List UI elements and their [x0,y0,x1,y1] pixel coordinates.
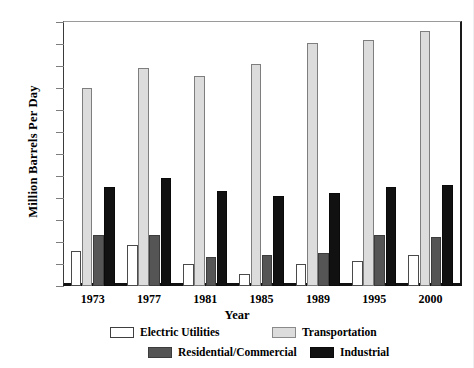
petroleum-consumption-bar-chart: Million Barrels Per Day 0123456789101112… [0,0,474,368]
bar [273,196,284,286]
bar [161,178,172,286]
x-axis-tick-label: 2000 [400,292,460,307]
y-axis-tick [56,66,64,67]
y-axis-title: Million Barrels Per Day [26,27,41,277]
legend-swatch-icon [110,327,134,338]
bar-group [346,22,402,286]
x-axis-title: Year [0,308,474,323]
legend-swatch-icon [310,347,334,358]
x-axis-tick-label: 1973 [63,292,123,307]
legend-entry: Transportation [272,326,377,338]
y-axis-tick [56,264,64,265]
bar [318,253,329,286]
bar [408,255,419,286]
legend-label: Electric Utilities [140,326,220,338]
legend-swatch-icon [148,347,172,358]
bar-group [177,22,233,286]
legend-entry: Industrial [310,346,389,358]
y-axis-tick [56,88,64,89]
y-axis-tick [56,44,64,45]
bar [374,235,385,286]
bar [138,68,149,286]
bar [71,251,82,286]
y-axis-tick [56,176,64,177]
bar [251,64,262,286]
y-axis-tick [56,132,64,133]
y-axis-tick [56,22,64,23]
bar-group [233,22,289,286]
bar-group [121,22,177,286]
bar-group [290,22,346,286]
x-axis-tick-label: 1995 [344,292,404,307]
legend-swatch-icon [272,327,296,338]
bar [183,264,194,286]
legend-label: Industrial [340,346,389,358]
bar [442,185,453,286]
y-axis-tick [56,286,64,287]
y-axis-tick [56,220,64,221]
y-axis-tick [56,110,64,111]
bar-group [65,22,121,286]
bar [82,88,93,286]
y-axis-tick [56,198,64,199]
bar [296,264,307,286]
bar [329,193,340,287]
legend-entry: Residential/Commercial [148,346,297,358]
chart-legend: Electric UtilitiesTransportationResident… [0,326,474,368]
x-axis-tick-label: 1981 [175,292,235,307]
bar [93,235,104,286]
bar [127,245,138,286]
x-axis-tick-label: 1989 [288,292,348,307]
legend-label: Transportation [302,326,377,338]
y-axis-tick [56,242,64,243]
bar [352,261,363,286]
bar [307,43,318,286]
bar [194,76,205,286]
bar [217,191,228,286]
x-axis-tick-label: 1985 [232,292,292,307]
bar [206,257,217,286]
bar [262,255,273,286]
x-axis-tick-label: 1977 [119,292,179,307]
legend-label: Residential/Commercial [178,346,297,358]
bar [239,274,250,286]
bar [104,187,115,286]
bar [386,187,397,286]
bar [420,31,431,286]
bar [431,237,442,287]
bar-group [402,22,458,286]
bar [363,40,374,286]
legend-entry: Electric Utilities [110,326,220,338]
bar [149,235,160,286]
bars-layer [65,22,459,286]
y-axis-tick [56,154,64,155]
